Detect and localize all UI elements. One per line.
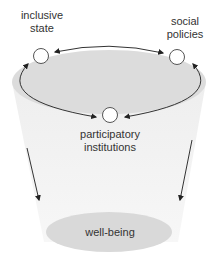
label-well-being: well-being: [70, 226, 150, 239]
node-social-policies: [170, 50, 185, 65]
label-inclusive-state: inclusive state: [12, 9, 72, 35]
label-social-policies: social policies: [158, 15, 212, 41]
label-participatory-institutions: participatory institutions: [70, 128, 150, 154]
node-participatory-institutions: [103, 108, 118, 123]
node-inclusive-state: [34, 49, 49, 64]
